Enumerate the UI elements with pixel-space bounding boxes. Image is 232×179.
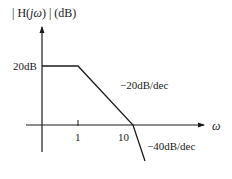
bode-plot: | H(jω) | (dB) 20dB 1 10 ω −20dB/dec −40… xyxy=(0,0,232,179)
x-tick-label-1: 1 xyxy=(75,131,81,143)
y-axis-label: | H(jω) | (dB) xyxy=(12,6,76,20)
y-tick-label-20db: 20dB xyxy=(13,60,37,72)
slope-label-minus20: −20dB/dec xyxy=(120,79,168,91)
slope-label-minus40: −40dB/dec xyxy=(147,140,195,152)
x-tick-label-10: 10 xyxy=(118,131,130,143)
x-axis-label: ω xyxy=(212,119,220,133)
